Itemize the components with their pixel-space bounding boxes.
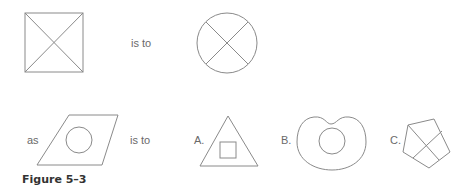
figure-graphics [0,0,475,193]
pentagon-with-cross-icon [403,119,450,168]
figure-caption: Figure 5–3 [22,173,87,186]
as-label: as [27,134,39,146]
is-to-label-2: is to [130,134,150,146]
option-b-label: B. [281,134,291,146]
option-a-label: A. [194,134,204,146]
parallelogram-with-circle-icon [37,115,118,165]
square-with-diagonals-icon [25,13,83,72]
is-to-label-1: is to [131,37,151,49]
analogy-figure: is to as is to A. B. C. Figure 5–3 [0,0,475,193]
option-c-label: C. [390,134,401,146]
kidney-with-circle-icon [297,117,366,170]
circle-with-cross-icon [197,13,257,73]
triangle-with-square-icon [200,116,258,166]
